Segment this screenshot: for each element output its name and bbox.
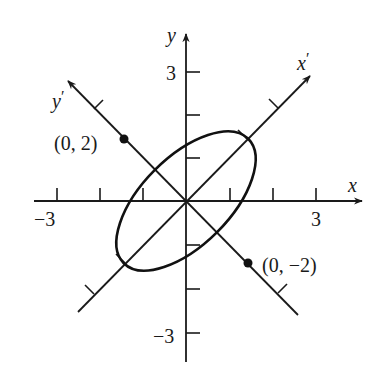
- x-axis-label: x: [347, 174, 357, 196]
- y-prime-axis-label: y′: [50, 88, 64, 113]
- point-0-2: [120, 135, 129, 144]
- y-prime-axis: [68, 81, 298, 315]
- x-prime-letter: x: [296, 52, 306, 74]
- y-axis-label: y: [165, 24, 176, 47]
- x-tick-label-neg3: −3: [34, 208, 55, 230]
- rotated-ellipse-diagram: x y x′ y′ −3 3 3 −3 (0, 2) (0, −2): [0, 0, 380, 388]
- x-tick-label-3: 3: [311, 208, 321, 230]
- x-prime-axis: [78, 76, 310, 312]
- y-prime-mark: ′: [61, 88, 65, 105]
- x-prime-mark: ′: [306, 50, 310, 67]
- y-tick-label-neg3: −3: [153, 325, 174, 347]
- y-tick-label-3: 3: [166, 62, 176, 84]
- y-axis: [186, 34, 200, 362]
- point-label-0-neg2: (0, −2): [262, 254, 317, 277]
- x-prime-axis-label: x′: [296, 50, 309, 74]
- y-prime-letter: y: [50, 90, 61, 113]
- point-label-0-2: (0, 2): [54, 132, 97, 155]
- diagram-canvas: x y x′ y′ −3 3 3 −3 (0, 2) (0, −2): [0, 0, 380, 388]
- point-0-neg2: [244, 259, 253, 268]
